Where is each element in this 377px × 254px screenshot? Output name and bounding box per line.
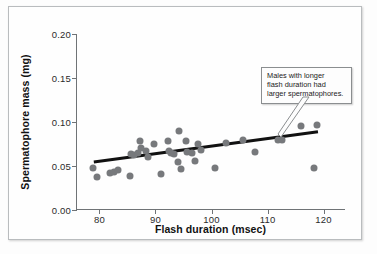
x-axis-title: Flash duration (msec) [76,223,345,235]
data-point [126,172,133,179]
y-axis-tick [72,34,77,35]
y-axis-tick [72,166,77,167]
y-axis-tick-label: 0.20 [52,29,71,40]
figure-frame: Spermatophore mass (mg) 0.000.050.100.15… [8,6,362,240]
y-axis-tick [72,78,77,79]
data-point [137,138,144,145]
data-point [174,158,181,165]
data-point [240,136,247,143]
data-point [211,164,218,171]
y-axis-title-text: Spermatophore mass (mg) [19,54,31,189]
annotation-pointer-icon [259,97,329,147]
y-axis-title: Spermatophore mass (mg) [18,34,32,210]
data-point [188,149,195,156]
data-point [170,150,177,157]
annotation-line-2: flash duration had [267,80,347,89]
y-axis-tick [72,122,77,123]
data-point [178,165,185,172]
data-point [192,157,199,164]
data-point [114,166,121,173]
data-point [252,148,259,155]
data-point [158,170,165,177]
y-axis-tick-label: 0.00 [52,205,71,216]
data-point [94,173,101,180]
data-point [198,147,205,154]
y-axis-tick [72,210,77,211]
data-point [223,140,230,147]
data-point [182,138,189,145]
data-point [144,154,151,161]
annotation-line-1: Males with longer [267,71,347,80]
data-point [151,141,158,148]
data-point [164,138,171,145]
data-point [90,164,97,171]
data-point [311,164,318,171]
y-axis-tick-label: 0.15 [52,73,71,84]
data-point [175,127,182,134]
y-axis-tick-label: 0.05 [52,161,71,172]
figure-container: Spermatophore mass (mg) 0.000.050.100.15… [0,0,377,254]
y-axis-tick-label: 0.10 [52,117,71,128]
